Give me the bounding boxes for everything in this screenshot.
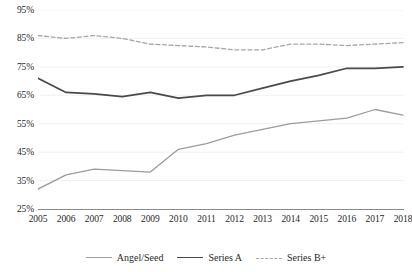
legend-label: Series B+: [287, 252, 326, 264]
y-tick-label: 65%: [0, 90, 34, 100]
y-tick-label: 55%: [0, 119, 34, 129]
legend-swatch-bar: [86, 257, 112, 258]
y-tick-label: 95%: [0, 5, 34, 15]
x-tick-label: 2012: [225, 213, 244, 225]
chart-canvas: [38, 10, 404, 209]
x-tick-label: 2006: [57, 213, 76, 225]
x-axis: 2005200620072008200920102011201220132014…: [38, 213, 404, 229]
series-lines: [38, 36, 403, 190]
x-tick-label: 2015: [309, 213, 328, 225]
x-tick-label: 2008: [113, 213, 132, 225]
x-tick-label: 2005: [29, 213, 48, 225]
chart-legend: Angel/SeedSeries ASeries B+: [0, 249, 412, 267]
y-tick-label: 45%: [0, 147, 34, 157]
plot-area: [38, 10, 404, 209]
legend-label: Angel/Seed: [117, 252, 164, 264]
line-chart: 25%35%45%55%65%75%85%95% 200520062007200…: [0, 0, 412, 272]
x-tick-label: 2009: [141, 213, 160, 225]
legend-label: Series A: [208, 252, 242, 264]
x-tick-label: 2010: [169, 213, 188, 225]
x-tick-label: 2011: [197, 213, 215, 225]
x-tick-label: 2013: [253, 213, 272, 225]
series-line-angel-seed: [38, 110, 403, 190]
y-axis: 25%35%45%55%65%75%85%95%: [0, 0, 34, 219]
y-tick-label: 75%: [0, 62, 34, 72]
x-tick-label: 2007: [85, 213, 104, 225]
x-tick-label: 2018: [394, 213, 412, 225]
x-tick-label: 2017: [366, 213, 385, 225]
x-tick-label: 2016: [338, 213, 357, 225]
legend-item[interactable]: Angel/Seed: [86, 252, 164, 264]
y-tick-label: 85%: [0, 33, 34, 43]
legend-item[interactable]: Series B+: [256, 252, 326, 264]
x-tick-label: 2014: [281, 213, 300, 225]
y-tick-label: 35%: [0, 176, 34, 186]
series-line-series-a: [38, 67, 403, 98]
legend-swatch-line-icon: [177, 254, 203, 262]
series-line-series-b: [38, 36, 403, 50]
legend-swatch-bar: [256, 258, 282, 259]
legend-swatch-line-icon: [256, 254, 282, 262]
legend-swatch-bar: [177, 257, 203, 258]
legend-swatch-line-icon: [86, 254, 112, 262]
x-axis-line: [38, 209, 404, 210]
legend-item[interactable]: Series A: [177, 252, 242, 264]
